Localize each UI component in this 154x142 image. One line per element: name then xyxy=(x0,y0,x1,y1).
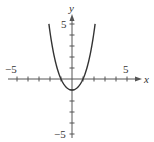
y-tick-label-5: 5 xyxy=(61,19,67,30)
y-axis-label: y xyxy=(69,3,74,14)
axes xyxy=(8,14,142,138)
graph: y 5 −5 −5 5 x xyxy=(0,0,154,142)
x-tick-label-5: 5 xyxy=(123,64,129,75)
y-tick-label-neg5: −5 xyxy=(54,129,66,140)
plot-area xyxy=(0,0,154,142)
x-axis-label: x xyxy=(144,74,149,85)
x-tick-label-neg5: −5 xyxy=(5,64,17,75)
